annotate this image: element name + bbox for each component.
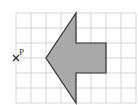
point-label: P	[19, 47, 24, 57]
arrow-shape	[46, 13, 106, 103]
grid-diagram: P	[0, 0, 138, 105]
point-p: P	[13, 47, 24, 61]
